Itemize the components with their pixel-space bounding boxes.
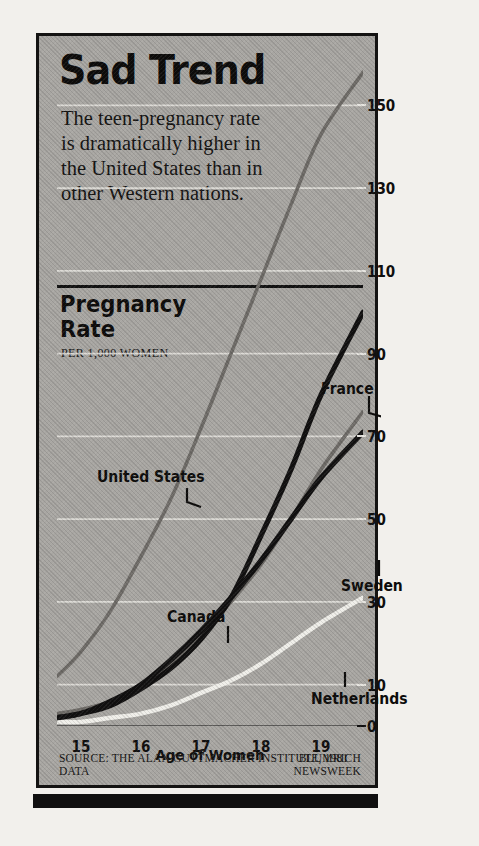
credit-publication: NEWSWEEK [289,765,361,778]
series-label-canada: Canada [167,608,225,626]
series-annotations: United StatesCanadaFranceSwedenNetherlan… [39,36,381,791]
series-label-sweden: Sweden [341,577,403,595]
series-label-united-states: United States [97,468,205,486]
series-label-france: France [321,380,374,398]
chart-panel: Sad Trend The teen-pregnancy rate is dra… [36,33,378,788]
credit-note: BLUMRICH NEWSWEEK [289,752,361,778]
bottom-rule [33,794,378,808]
credit-artist: BLUMRICH [289,752,361,765]
series-label-netherlands: Netherlands [311,690,407,708]
leader-lines [39,36,381,791]
newspaper-page: Sad Trend The teen-pregnancy rate is dra… [0,0,479,846]
